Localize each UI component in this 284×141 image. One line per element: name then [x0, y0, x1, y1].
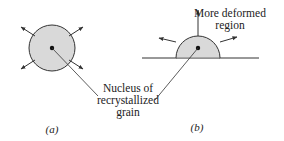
more-deformed-label-line2: region	[215, 19, 245, 32]
growth-arrow-icon	[69, 27, 83, 36]
growth-arrow-right-icon	[220, 37, 237, 42]
nucleus-label: Nucleus of recrystallized grain	[97, 82, 159, 119]
leader-line-a	[52, 48, 98, 96]
growth-arrow-left-icon	[159, 38, 176, 42]
panel-b: More deformed region (b)	[142, 7, 266, 134]
nucleus-label-line1: Nucleus of	[103, 82, 153, 94]
nucleus-label-line3: grain	[116, 106, 140, 119]
caption-a: (a)	[46, 123, 59, 136]
caption-b: (b)	[191, 121, 204, 134]
recrystallization-nucleation-figure: (a) More deformed region (b) Nucleus of …	[0, 0, 284, 141]
growth-arrow-icon	[21, 60, 35, 69]
growth-arrow-icon	[21, 27, 35, 36]
figure-canvas: (a) More deformed region (b) Nucleus of …	[0, 0, 284, 141]
panel-a: (a)	[21, 25, 98, 136]
more-deformed-label-line1: More deformed	[194, 7, 266, 19]
